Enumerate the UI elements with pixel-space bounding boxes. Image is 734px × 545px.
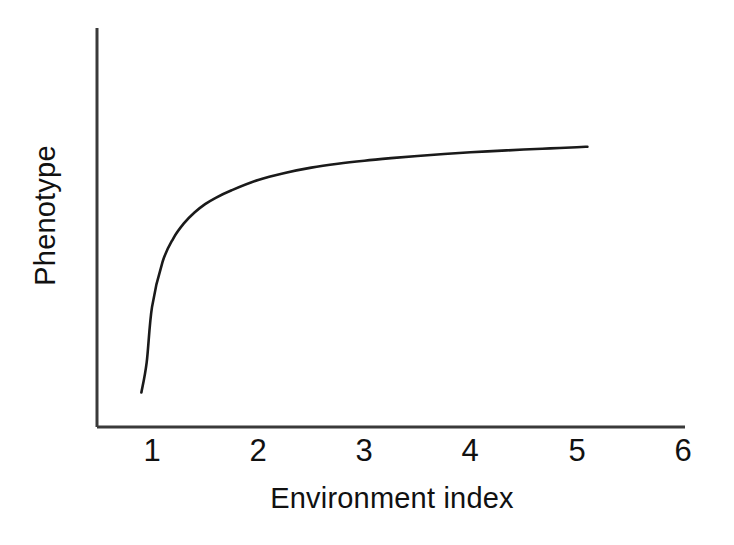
chart-figure: Phenotype Environment index 1 2 3 4 5 6 — [0, 0, 734, 545]
plot-area — [0, 0, 734, 545]
data-series-line — [141, 147, 587, 393]
